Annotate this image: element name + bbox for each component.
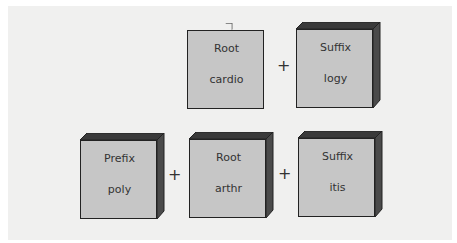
word-part-text: arthr: [190, 182, 267, 195]
box-face: Root arthr: [189, 139, 266, 218]
box-face: Suffix logy: [296, 29, 373, 108]
word-part-box-root-arthr: Root arthr: [189, 132, 266, 211]
word-part-role: Prefix: [81, 152, 158, 165]
word-part-text: poly: [81, 183, 158, 196]
word-part-role: Root: [188, 42, 265, 55]
word-part-role: Root: [190, 151, 267, 164]
word-part-role: Suffix: [299, 150, 376, 163]
box-3d-edge: [187, 23, 271, 30]
word-part-role: Suffix: [297, 41, 374, 54]
word-part-text: cardio: [188, 73, 265, 86]
word-part-text: itis: [299, 181, 376, 194]
word-part-text: logy: [297, 72, 374, 85]
word-part-box-suffix-itis: Suffix itis: [298, 131, 375, 210]
plus-operator: +: [277, 58, 290, 74]
box-face: Root cardio: [187, 30, 264, 109]
word-part-box-suffix-logy: Suffix logy: [296, 22, 373, 101]
plus-operator: +: [278, 166, 291, 182]
box-face: Suffix itis: [298, 138, 375, 217]
word-part-box-root-cardio: Root cardio: [187, 23, 264, 102]
box-face: Prefix poly: [80, 140, 157, 219]
plus-operator: +: [168, 167, 181, 183]
word-part-box-prefix-poly: Prefix poly: [80, 133, 157, 212]
